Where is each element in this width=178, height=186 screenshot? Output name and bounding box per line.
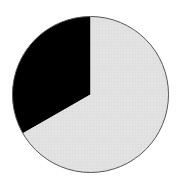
pie-chart bbox=[0, 0, 178, 186]
pie-chart-svg bbox=[0, 0, 178, 186]
pie-slices bbox=[12, 17, 168, 173]
